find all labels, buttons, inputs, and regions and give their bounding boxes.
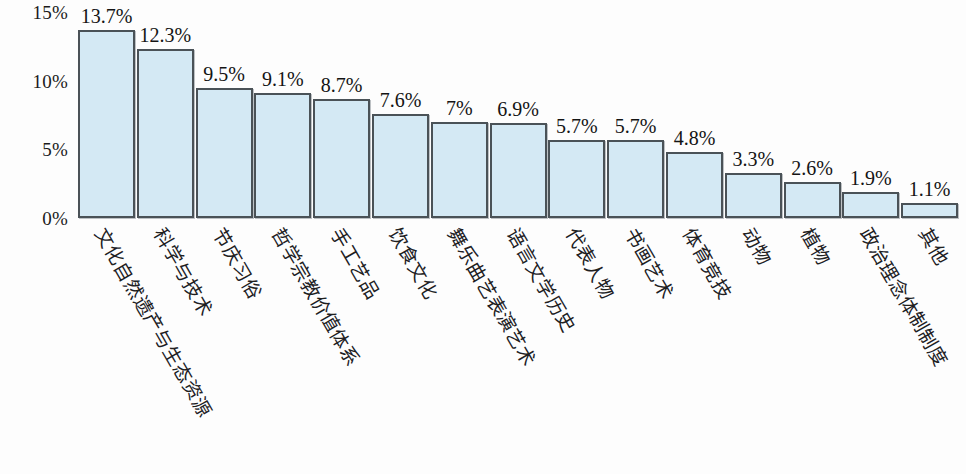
x-axis-category-label: 书画艺术 [619,222,681,303]
bar-group: 8.7% [313,0,370,218]
bar-group: 3.3% [725,0,782,218]
bar-group: 6.9% [490,0,547,218]
bar [372,114,429,218]
bar-value-label: 7.6% [380,90,422,110]
bar-value-label: 13.7% [81,6,133,26]
x-axis-category-label: 节庆习俗 [208,222,270,303]
bar-group: 5.7% [548,0,605,218]
x-axis-category-label: 代表人物 [560,222,622,303]
plot-area: 13.7%12.3%9.5%9.1%8.7%7.6%7%6.9%5.7%5.7%… [78,0,960,218]
y-tick-label: 0% [42,209,68,228]
bar-value-label: 5.7% [615,116,657,136]
bar [490,123,547,218]
bar-value-label: 12.3% [139,25,191,45]
bar-group: 4.8% [666,0,723,218]
bar-group: 2.6% [784,0,841,218]
bar-value-label: 3.3% [732,149,774,169]
bar [254,93,311,218]
bar-value-label: 7% [446,98,473,118]
bar [78,30,135,218]
x-axis-category-label: 手工艺品 [325,222,387,303]
bar-value-label: 9.1% [262,69,304,89]
y-axis: 0%5%10%15% [0,0,78,218]
x-axis-category-label: 饮食文化 [384,222,446,303]
y-tick-label: 15% [33,3,68,22]
x-axis-category-label: 体育竞技 [678,222,740,303]
bar [196,88,253,218]
bar [137,49,194,218]
bar [842,192,899,218]
x-axis-labels: 文化自然遗产与生态资源科学与技术节庆习俗哲学宗教价值体系手工艺品饮食文化舞乐曲艺… [78,222,960,474]
x-axis-category-label: 植物 [796,222,839,269]
bar-value-label: 2.6% [791,158,833,178]
bar-value-label: 1.9% [850,168,892,188]
bar-value-label: 9.5% [203,64,245,84]
bar [548,140,605,218]
bar-value-label: 6.9% [497,99,539,119]
bar-group: 9.1% [254,0,311,218]
bar [901,203,958,218]
bar-value-label: 4.8% [674,128,716,148]
bar [607,140,664,218]
bar-group: 7% [431,0,488,218]
bar-group: 1.9% [842,0,899,218]
bar-group: 1.1% [901,0,958,218]
y-tick-label: 10% [33,71,68,90]
bar-group: 9.5% [196,0,253,218]
bar-chart: 0%5%10%15% 13.7%12.3%9.5%9.1%8.7%7.6%7%6… [0,0,966,474]
bar [725,173,782,218]
x-axis-category-label: 其他 [913,222,956,269]
bar [666,152,723,218]
bar [784,182,841,218]
bar [431,122,488,218]
bar-group: 7.6% [372,0,429,218]
x-axis-category-label: 文化自然遗产与生态资源 [90,222,221,421]
bar [313,99,370,218]
x-axis-category-label: 动物 [737,222,780,269]
bar-value-label: 1.1% [909,179,951,199]
bar-group: 13.7% [78,0,135,218]
bar-value-label: 5.7% [556,116,598,136]
bar-value-label: 8.7% [321,75,363,95]
bar-group: 12.3% [137,0,194,218]
bar-group: 5.7% [607,0,664,218]
y-tick-label: 5% [42,140,68,159]
